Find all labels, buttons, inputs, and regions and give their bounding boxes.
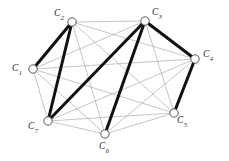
- edge-c1-c3: [33, 21, 145, 69]
- edge-c2-c5: [72, 22, 174, 113]
- node-c1[interactable]: [29, 65, 37, 73]
- node-label-c4: C4: [203, 50, 213, 61]
- bold-edge-c4-c5: [174, 59, 195, 113]
- node-label-c1: C1: [12, 64, 22, 75]
- node-label-c3: C3: [152, 8, 162, 19]
- node-label-c5: C5: [177, 116, 187, 127]
- bold-edge-c3-c4: [145, 21, 195, 59]
- edge-c1-c7: [33, 69, 48, 121]
- node-c7[interactable]: [44, 117, 52, 125]
- edge-c2-c3: [72, 21, 145, 22]
- node-c3[interactable]: [141, 17, 149, 25]
- node-c6[interactable]: [101, 130, 109, 138]
- edge-c3-c5: [145, 21, 174, 113]
- graph-canvas: [0, 0, 229, 161]
- node-layer: [29, 17, 199, 138]
- node-c4[interactable]: [191, 55, 199, 63]
- node-label-c7: C7: [28, 122, 38, 133]
- edge-c6-c7: [48, 121, 105, 134]
- edge-c1-c4: [33, 59, 195, 69]
- node-label-c6: C6: [99, 142, 109, 153]
- node-c2[interactable]: [68, 18, 76, 26]
- node-label-c2: C2: [54, 9, 64, 20]
- graph-figure: C1C2C3C4C5C6C7: [0, 0, 229, 161]
- edge-c5-c6: [105, 113, 174, 134]
